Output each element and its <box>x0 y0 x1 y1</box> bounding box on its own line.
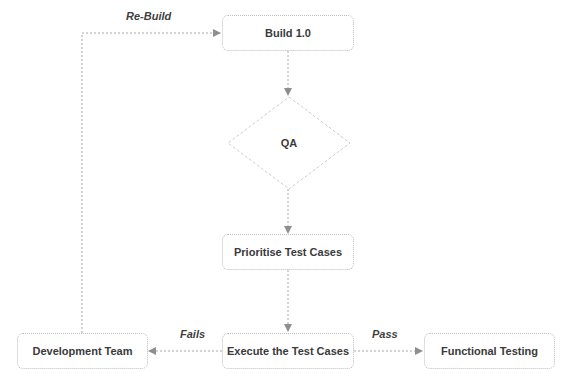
node-prioritise-label: Prioritise Test Cases <box>234 246 342 258</box>
node-execute-label: Execute the Test Cases <box>227 345 349 357</box>
node-prioritise[interactable]: Prioritise Test Cases <box>222 234 354 270</box>
flowchart-canvas: Build 1.0 QA Prioritise Test Cases Execu… <box>0 0 568 388</box>
edge-label-fails: Fails <box>180 328 205 340</box>
node-functional[interactable]: Functional Testing <box>424 333 555 369</box>
node-build-label: Build 1.0 <box>265 27 311 39</box>
edge-label-rebuild: Re-Build <box>126 10 171 22</box>
node-dev-team[interactable]: Development Team <box>17 333 148 369</box>
node-execute[interactable]: Execute the Test Cases <box>222 333 354 369</box>
node-build[interactable]: Build 1.0 <box>222 15 354 51</box>
node-functional-label: Functional Testing <box>441 345 538 357</box>
edge-dev-team-to-build <box>82 33 220 333</box>
node-dev-team-label: Development Team <box>32 345 132 357</box>
node-qa-label: QA <box>281 137 298 149</box>
flowchart-edges <box>0 0 568 388</box>
edge-label-pass: Pass <box>372 328 398 340</box>
